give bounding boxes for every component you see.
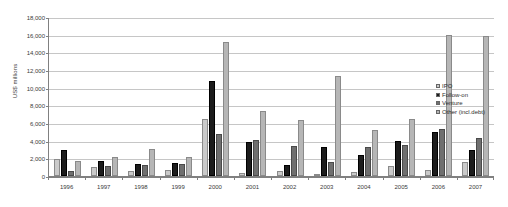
bar-chart: US$ millions 18,00016,00014,00012,00010,… (0, 0, 508, 207)
bar (351, 172, 357, 176)
bar (165, 170, 171, 176)
x-tick-mark (122, 177, 123, 180)
y-tick-label: 14,000 (27, 50, 49, 56)
bar (260, 111, 266, 176)
x-tick-mark (197, 177, 198, 180)
x-tick: 2005 (383, 177, 420, 203)
bar (291, 146, 297, 176)
bar-group (160, 18, 197, 176)
bar-group (234, 18, 271, 176)
x-tick-mark (160, 177, 161, 180)
x-tick-label: 2005 (394, 184, 407, 190)
x-tick-mark (48, 177, 49, 180)
bar (298, 120, 304, 176)
x-tick-mark (234, 177, 235, 180)
x-tick-mark (420, 177, 421, 180)
x-tick: 2004 (345, 177, 382, 203)
bar (149, 149, 155, 176)
y-tick-label: 6,000 (30, 121, 49, 127)
bar-group (271, 18, 308, 176)
x-tick-mark (345, 177, 346, 180)
bar (91, 167, 97, 176)
bar (321, 147, 327, 176)
bar (425, 170, 431, 176)
bar (61, 150, 67, 176)
y-tick-label: 16,000 (27, 33, 49, 39)
bar (75, 161, 81, 176)
legend-item[interactable]: IPO (436, 83, 485, 89)
bar (395, 141, 401, 176)
x-tick-label: 1996 (60, 184, 73, 190)
bar (335, 76, 341, 176)
bar (142, 165, 148, 176)
bar-group (86, 18, 123, 176)
y-tick-label: 8,000 (30, 103, 49, 109)
legend-item[interactable]: Venture (436, 100, 485, 106)
bar (216, 134, 222, 176)
x-tick: 1998 (122, 177, 159, 203)
bar (223, 42, 229, 176)
x-tick: 2006 (420, 177, 457, 203)
x-tick: 2000 (197, 177, 234, 203)
x-tick-label: 2004 (357, 184, 370, 190)
bar-group (383, 18, 420, 176)
bar (239, 173, 245, 176)
x-tick-label: 1999 (171, 184, 184, 190)
bar (469, 150, 475, 176)
x-tick-label: 2002 (283, 184, 296, 190)
legend-swatch-icon (436, 110, 440, 114)
x-tick-mark (85, 177, 86, 180)
y-axis-title: US$ millions (12, 46, 18, 116)
bar (68, 171, 74, 176)
bar (179, 164, 185, 176)
legend-label: Other (incl.debt) (442, 109, 485, 115)
y-tick-label: 12,000 (27, 68, 49, 74)
bar (358, 155, 364, 176)
x-tick: 1996 (48, 177, 85, 203)
x-tick-label: 2006 (432, 184, 445, 190)
legend: IPOFollow-onVentureOther (incl.debt) (436, 83, 485, 115)
x-tick-label: 2001 (246, 184, 259, 190)
x-tick-label: 1997 (97, 184, 110, 190)
legend-item[interactable]: Other (incl.debt) (436, 109, 485, 115)
bar (372, 130, 378, 176)
x-tick: 1997 (85, 177, 122, 203)
x-tick: 1999 (160, 177, 197, 203)
bar (54, 159, 60, 176)
bar (209, 81, 215, 176)
bar (409, 119, 415, 176)
bar (476, 138, 482, 176)
x-tick-label: 2003 (320, 184, 333, 190)
x-tick-label: 2007 (469, 184, 482, 190)
x-tick: 2002 (271, 177, 308, 203)
x-tick-mark (457, 177, 458, 180)
bar (246, 142, 252, 176)
x-tick: 2001 (234, 177, 271, 203)
legend-swatch-icon (436, 101, 440, 105)
bar (98, 161, 104, 176)
bar (462, 162, 468, 176)
x-tick-mark (383, 177, 384, 180)
x-tick-label: 2000 (209, 184, 222, 190)
x-axis: 1996199719981999200020012002200320042005… (48, 177, 494, 203)
y-tick-label: 10,000 (27, 86, 49, 92)
x-tick-mark (271, 177, 272, 180)
legend-swatch-icon (436, 93, 440, 97)
bar (202, 119, 208, 176)
bar (388, 166, 394, 176)
bar-group (309, 18, 346, 176)
bar (253, 140, 259, 176)
legend-item[interactable]: Follow-on (436, 92, 485, 98)
bar (314, 174, 320, 176)
plot-area: 18,00016,00014,00012,00010,0008,0006,000… (48, 18, 494, 177)
y-tick-label: 4,000 (30, 139, 49, 145)
bar (402, 145, 408, 176)
y-tick-label: 2,000 (30, 156, 49, 162)
x-tick-label: 1998 (134, 184, 147, 190)
bar (328, 162, 334, 176)
bar (365, 147, 371, 176)
bar (172, 163, 178, 176)
bar (112, 157, 118, 176)
bar-groups (49, 18, 494, 176)
x-tick: 2003 (308, 177, 345, 203)
